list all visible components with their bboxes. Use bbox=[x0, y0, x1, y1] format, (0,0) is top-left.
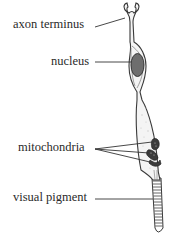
label-axon-terminus: axon terminus bbox=[13, 18, 84, 31]
label-nucleus: nucleus bbox=[51, 55, 89, 68]
label-mitochondria: mitochondria bbox=[18, 141, 85, 154]
nucleus-shape bbox=[131, 54, 144, 77]
label-visual-pigment: visual pigment bbox=[13, 191, 87, 204]
outer-segment-visual-pigment bbox=[152, 178, 163, 232]
